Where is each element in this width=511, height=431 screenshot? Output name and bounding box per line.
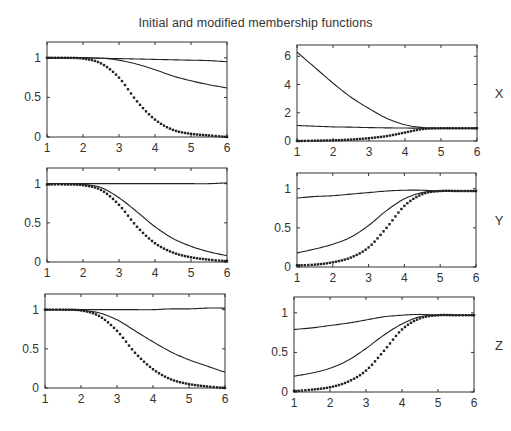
data-marker [218, 135, 220, 137]
chart-panel-z-right: 12345600.51Z [271, 297, 503, 410]
y-tick-label: 1 [34, 177, 41, 191]
data-marker [101, 317, 103, 319]
y-tick-label: 4 [284, 78, 291, 92]
data-marker [413, 129, 415, 131]
data-marker [163, 247, 165, 249]
data-marker [352, 255, 354, 257]
data-marker [344, 139, 346, 141]
x-tick-label: 5 [438, 145, 445, 159]
data-marker [106, 66, 108, 68]
data-marker [382, 230, 384, 232]
data-marker [57, 183, 59, 185]
data-marker [182, 382, 184, 384]
data-marker [400, 208, 402, 210]
data-marker [181, 131, 183, 133]
data-marker [110, 324, 112, 326]
data-marker [161, 374, 163, 376]
chart-panel-z-left: 12345600.51 [22, 294, 228, 406]
data-marker [181, 254, 183, 256]
data-marker [82, 57, 84, 59]
data-marker [127, 88, 129, 90]
data-marker [59, 308, 61, 310]
data-marker [386, 346, 388, 348]
data-marker [383, 135, 385, 137]
data-marker [326, 262, 328, 264]
data-marker [104, 319, 106, 321]
data-marker [226, 260, 228, 262]
data-marker [433, 190, 435, 192]
data-marker [353, 378, 355, 380]
data-marker [416, 129, 418, 131]
data-marker [335, 385, 337, 387]
data-marker [403, 205, 405, 207]
data-marker [320, 263, 322, 265]
data-marker [122, 337, 124, 339]
data-marker [119, 333, 121, 335]
data-marker [54, 57, 56, 59]
y-tick-label: 0.5 [271, 345, 288, 359]
x-tick-label: 1 [44, 266, 51, 280]
data-marker [377, 136, 379, 138]
x-tick-label: 3 [116, 266, 123, 280]
data-marker [200, 385, 202, 387]
data-marker [169, 250, 171, 252]
data-marker [362, 372, 364, 374]
data-marker [359, 138, 361, 140]
data-marker [460, 190, 462, 192]
data-marker [136, 226, 138, 228]
data-marker [115, 201, 117, 203]
data-marker [94, 186, 96, 188]
data-marker [196, 133, 198, 135]
data-marker [164, 375, 166, 377]
data-marker [188, 383, 190, 385]
data-marker [347, 381, 349, 383]
data-marker [449, 127, 451, 129]
y-tick-label: 0 [284, 260, 291, 274]
data-marker [428, 127, 430, 129]
data-marker [380, 353, 382, 355]
data-marker [295, 390, 297, 392]
data-marker [190, 256, 192, 258]
data-marker [116, 330, 118, 332]
x-tick-label: 4 [401, 271, 408, 285]
data-marker [67, 57, 69, 59]
data-marker [457, 190, 459, 192]
data-marker [167, 377, 169, 379]
data-marker [143, 361, 145, 363]
data-marker [91, 59, 93, 61]
data-marker [454, 190, 456, 192]
data-marker [203, 385, 205, 387]
data-marker [465, 314, 467, 316]
data-marker [196, 257, 198, 259]
data-marker [468, 127, 470, 129]
chart-panel-x-left: 12345600.51 [24, 42, 230, 155]
x-tick-label: 2 [330, 145, 337, 159]
data-marker [163, 124, 165, 126]
data-marker [440, 127, 442, 129]
data-marker [97, 187, 99, 189]
x-tick-label: 6 [474, 145, 481, 159]
data-marker [218, 259, 220, 261]
data-marker [338, 260, 340, 262]
y-tick-label: 1 [34, 51, 41, 65]
data-marker [314, 388, 316, 390]
data-marker [356, 376, 358, 378]
data-marker [304, 140, 306, 142]
data-marker [139, 229, 141, 231]
data-marker [131, 348, 133, 350]
data-marker [449, 314, 451, 316]
data-marker [317, 263, 319, 265]
data-marker [415, 196, 417, 198]
y-tick-label: 0.5 [274, 221, 291, 235]
data-marker [323, 263, 325, 265]
data-marker [468, 314, 470, 316]
data-marker [367, 246, 369, 248]
data-marker [392, 338, 394, 340]
data-marker [187, 132, 189, 134]
x-tick-label: 6 [224, 141, 231, 155]
data-marker [308, 389, 310, 391]
data-marker [85, 58, 87, 60]
row-label-x: X [495, 86, 504, 101]
data-marker [307, 140, 309, 142]
data-marker [224, 387, 226, 389]
